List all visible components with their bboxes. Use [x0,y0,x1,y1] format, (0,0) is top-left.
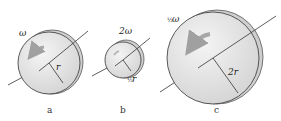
radius-label: r [56,62,61,72]
panel-a: ω r a [8,28,88,115]
rotating-disks-diagram: ω r a 2ω ½ r b ½ ω 2r c [0,0,281,121]
omega-label: ω [172,14,180,24]
radius-label: r [132,74,137,84]
panel-b: 2ω ½ r b [92,26,150,115]
radius-label: 2r [227,67,239,77]
panel-caption: a [47,105,53,115]
panel-caption: c [214,105,219,115]
panel-c: ½ ω 2r c [160,10,276,115]
omega-label: ω [19,28,27,38]
panel-caption: b [120,105,126,115]
omega-label: 2ω [118,26,133,36]
